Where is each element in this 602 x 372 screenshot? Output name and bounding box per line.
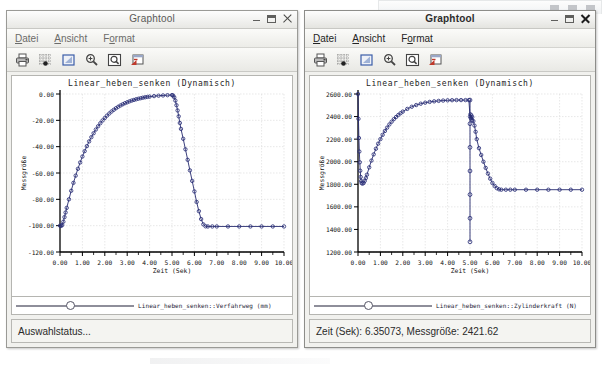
title-bar[interactable]: Graphtool <box>305 11 595 29</box>
svg-text:1200.00: 1200.00 <box>326 249 352 256</box>
svg-text:1.00: 1.00 <box>75 259 90 266</box>
chart-left[interactable]: 0.00-20.00-40.00-60.00-80.00-100.00-120.… <box>12 76 293 294</box>
status-text: Auswahlstatus... <box>18 326 91 337</box>
horizontal-scrollbar[interactable] <box>16 300 134 312</box>
svg-text:Messgröße: Messgröße <box>20 156 28 191</box>
zoom-in-icon[interactable] <box>380 51 399 69</box>
svg-text:1400.00: 1400.00 <box>326 226 352 233</box>
title-bar[interactable]: Graphtool <box>7 11 297 29</box>
svg-text:2.00: 2.00 <box>395 259 410 266</box>
svg-text:9.00: 9.00 <box>552 259 567 266</box>
svg-text:3.00: 3.00 <box>418 259 433 266</box>
close-icon[interactable] <box>283 14 292 23</box>
svg-text:4.00: 4.00 <box>440 259 455 266</box>
chart-panel-right[interactable]: Linear_heben_senken (Dynamisch) 2600.002… <box>309 75 591 297</box>
scrollbar-track[interactable] <box>16 305 134 307</box>
minimize-icon[interactable] <box>253 15 260 22</box>
chart-right[interactable]: 2600.002400.002200.002000.001800.001600.… <box>310 76 591 294</box>
scrollbar-track[interactable] <box>314 305 432 307</box>
svg-text:-120.00: -120.00 <box>28 249 54 256</box>
menu-item-ansicht[interactable]: Ansicht <box>54 33 87 44</box>
menu-item-format[interactable]: Format <box>103 33 135 44</box>
menu-item-ansicht[interactable]: Ansicht <box>352 33 385 44</box>
svg-text:7.00: 7.00 <box>507 259 522 266</box>
svg-text:-40.00: -40.00 <box>32 143 55 150</box>
print-icon[interactable] <box>13 51 32 69</box>
print-icon[interactable] <box>311 51 330 69</box>
zoom-fit-icon[interactable] <box>403 51 422 69</box>
zoom-region-icon[interactable] <box>357 51 376 69</box>
svg-text:5.00: 5.00 <box>165 259 180 266</box>
maximize-icon[interactable] <box>565 15 574 23</box>
svg-text:2600.00: 2600.00 <box>326 91 352 98</box>
legend-strip-left[interactable]: Linear_heben_senken::Verfahrweg (mm) <box>11 297 293 315</box>
grid-icon[interactable] <box>334 51 353 69</box>
svg-text:0.00: 0.00 <box>351 259 366 266</box>
scrollbar-thumb[interactable] <box>66 301 75 310</box>
svg-text:2400.00: 2400.00 <box>326 113 352 120</box>
caption-ghost <box>150 358 330 364</box>
menu-item-datei[interactable]: Datei <box>313 33 336 44</box>
svg-text:2000.00: 2000.00 <box>326 158 352 165</box>
minimize-icon[interactable] <box>551 15 558 22</box>
svg-text:Zeit (Sek): Zeit (Sek) <box>153 267 191 275</box>
svg-text:Messgröße: Messgröße <box>318 156 326 191</box>
status-text: Zeit (Sek): 6.35073, Messgröße: 2421.62 <box>316 326 498 337</box>
window-controls[interactable] <box>551 14 590 23</box>
svg-text:2200.00: 2200.00 <box>326 136 352 143</box>
svg-text:5.00: 5.00 <box>463 259 478 266</box>
svg-text:1800.00: 1800.00 <box>326 181 352 188</box>
svg-text:8.00: 8.00 <box>232 259 247 266</box>
svg-text:Zeit (Sek): Zeit (Sek) <box>451 267 489 275</box>
maximize-icon[interactable] <box>267 15 276 23</box>
svg-text:-100.00: -100.00 <box>28 222 54 229</box>
svg-text:8.00: 8.00 <box>530 259 545 266</box>
chart-panel-left[interactable]: Linear_heben_senken (Dynamisch) 0.00-20.… <box>11 75 293 297</box>
svg-text:4.00: 4.00 <box>142 259 157 266</box>
svg-text:10.00: 10.00 <box>573 259 591 266</box>
svg-text:10.00: 10.00 <box>275 259 293 266</box>
svg-text:0.00: 0.00 <box>53 259 68 266</box>
svg-text:2.00: 2.00 <box>97 259 112 266</box>
menu-bar[interactable]: Datei Ansicht Format <box>305 29 595 48</box>
svg-text:3.00: 3.00 <box>120 259 135 266</box>
zoom-region-icon[interactable] <box>59 51 78 69</box>
svg-text:0.00: 0.00 <box>39 91 54 98</box>
legend-label: Linear_heben_senken::Verfahrweg (mm) <box>138 302 272 309</box>
graphtool-window-right[interactable]: Graphtool Datei Ansicht Format <box>304 10 596 348</box>
close-icon[interactable] <box>581 14 590 23</box>
svg-text:-80.00: -80.00 <box>32 196 55 203</box>
svg-text:6.00: 6.00 <box>187 259 202 266</box>
scrollbar-thumb[interactable] <box>364 301 373 310</box>
horizontal-scrollbar[interactable] <box>314 300 432 312</box>
graphtool-window-left[interactable]: Graphtool Datei Ansicht Format <box>6 10 298 348</box>
svg-text:9.00: 9.00 <box>254 259 269 266</box>
window-controls[interactable] <box>253 14 292 23</box>
svg-text:6.00: 6.00 <box>485 259 500 266</box>
tool-bar[interactable] <box>7 48 297 72</box>
menu-bar[interactable]: Datei Ansicht Format <box>7 29 297 48</box>
svg-text:-20.00: -20.00 <box>32 117 55 124</box>
svg-text:-60.00: -60.00 <box>32 170 55 177</box>
zoom-in-icon[interactable] <box>82 51 101 69</box>
legend-label: Linear_heben_senken::Zylinderkraft (N) <box>436 302 577 309</box>
export-icon[interactable] <box>426 51 445 69</box>
svg-text:7.00: 7.00 <box>209 259 224 266</box>
status-bar-left: Auswahlstatus... <box>11 319 293 343</box>
export-icon[interactable] <box>128 51 147 69</box>
status-bar-right: Zeit (Sek): 6.35073, Messgröße: 2421.62 <box>309 319 591 343</box>
grid-icon[interactable] <box>36 51 55 69</box>
menu-item-format[interactable]: Format <box>401 33 433 44</box>
svg-text:1600.00: 1600.00 <box>326 203 352 210</box>
zoom-fit-icon[interactable] <box>105 51 124 69</box>
svg-text:1.00: 1.00 <box>373 259 388 266</box>
tool-bar[interactable] <box>305 48 595 72</box>
legend-strip-right[interactable]: Linear_heben_senken::Zylinderkraft (N) <box>309 297 591 315</box>
menu-item-datei[interactable]: Datei <box>15 33 38 44</box>
